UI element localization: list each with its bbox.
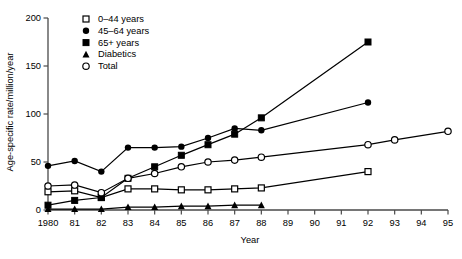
data-point-open-square <box>178 187 184 193</box>
x-axis-tick-label: 84 <box>149 218 159 228</box>
series-line <box>48 172 368 198</box>
data-point-open-circle <box>365 142 371 148</box>
data-point-filled-circle <box>151 144 157 150</box>
data-point-filled-square <box>152 164 158 170</box>
data-point-filled-circle <box>258 127 264 133</box>
data-point-filled-square <box>178 152 184 158</box>
data-point-filled-circle <box>205 135 211 141</box>
series-line <box>48 131 448 192</box>
legend-item: 45–64 years <box>83 26 150 36</box>
x-axis-tick-label: 91 <box>336 218 346 228</box>
data-point-filled-circle <box>71 158 77 164</box>
data-point-filled-circle <box>45 163 51 169</box>
data-point-open-circle <box>151 170 157 176</box>
data-point-open-circle <box>258 154 264 160</box>
data-point-filled-square <box>365 39 371 45</box>
chart-legend: 0–44 years45–64 years65+ yearsDiabeticsT… <box>83 14 150 71</box>
chart-container: 0501001502001980818283848586878889909192… <box>0 0 462 259</box>
data-point-filled-square <box>258 115 264 121</box>
x-axis-tick-label: 93 <box>389 218 399 228</box>
x-axis-tick-label: 94 <box>416 218 426 228</box>
x-axis-tick-label: 92 <box>363 218 373 228</box>
legend-marker-open-square <box>83 16 89 22</box>
data-series <box>45 128 451 196</box>
x-axis-tick-label: 86 <box>203 218 213 228</box>
data-point-open-circle <box>98 190 104 196</box>
legend-label: Diabetics <box>98 49 137 59</box>
data-point-open-square <box>152 186 158 192</box>
legend-item: 65+ years <box>83 38 139 48</box>
data-point-open-circle <box>125 175 131 181</box>
x-axis-tick-label: 85 <box>176 218 186 228</box>
x-axis-tick-label: 1980 <box>38 218 59 228</box>
x-axis-tick-label: 87 <box>229 218 239 228</box>
y-axis-tick-label: 200 <box>25 13 41 23</box>
data-point-open-circle <box>178 164 184 170</box>
data-point-open-circle <box>45 183 51 189</box>
series-line <box>48 42 368 205</box>
x-axis-tick-label: 88 <box>256 218 266 228</box>
data-point-filled-circle <box>125 144 131 150</box>
x-axis-tick-label: 81 <box>69 218 79 228</box>
data-point-open-circle <box>391 137 397 143</box>
data-point-filled-square <box>72 197 78 203</box>
data-point-open-square <box>365 169 371 175</box>
data-point-open-square <box>232 186 238 192</box>
legend-marker-filled-triangle <box>83 51 90 58</box>
legend-label: 65+ years <box>98 38 139 48</box>
legend-marker-open-circle <box>83 63 89 69</box>
data-point-filled-circle <box>98 168 104 174</box>
x-axis-tick-label: 83 <box>123 218 133 228</box>
legend-label: Total <box>98 61 118 71</box>
y-axis-tick-label: 0 <box>36 205 41 215</box>
legend-marker-filled-circle <box>83 28 89 34</box>
data-point-open-circle <box>205 159 211 165</box>
y-axis-tick-label: 50 <box>31 157 41 167</box>
x-axis-tick-label: 95 <box>443 218 453 228</box>
data-point-filled-circle <box>365 99 371 105</box>
legend-item: Diabetics <box>83 49 137 59</box>
data-series <box>45 39 371 208</box>
axes: 0501001502001980818283848586878889909192… <box>25 13 453 227</box>
data-point-open-circle <box>71 182 77 188</box>
x-axis-tick-label: 82 <box>96 218 106 228</box>
data-point-filled-circle <box>231 125 237 131</box>
data-point-open-circle <box>445 128 451 134</box>
data-point-filled-square <box>232 131 238 137</box>
legend-item: 0–44 years <box>83 14 144 24</box>
data-point-open-square <box>125 186 131 192</box>
x-axis-title: Year <box>241 235 260 245</box>
y-axis-tick-label: 150 <box>25 61 41 71</box>
legend-marker-filled-square <box>83 40 89 46</box>
legend-label: 45–64 years <box>98 26 150 36</box>
legend-item: Total <box>83 61 118 71</box>
data-point-open-square <box>205 187 211 193</box>
data-point-open-square <box>258 185 264 191</box>
data-point-filled-square <box>205 142 211 148</box>
data-series <box>45 169 371 201</box>
y-axis-tick-label: 100 <box>25 109 41 119</box>
x-axis-tick-label: 89 <box>283 218 293 228</box>
y-axis-title: Age-specific rate/million/year <box>5 53 15 172</box>
x-axis-tick-label: 90 <box>309 218 319 228</box>
data-point-filled-circle <box>178 143 184 149</box>
legend-label: 0–44 years <box>98 14 144 24</box>
chart-plot: 0501001502001980818283848586878889909192… <box>0 0 462 259</box>
data-point-open-circle <box>231 157 237 163</box>
